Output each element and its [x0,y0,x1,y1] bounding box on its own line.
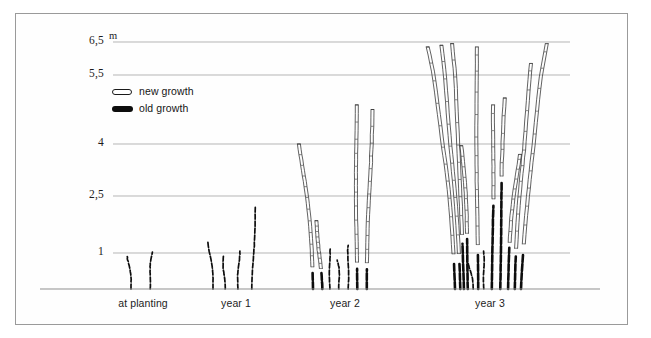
cane-old-growth [521,253,523,289]
ytick-label-1: 1 [56,245,104,257]
cane-new-growth-rail [354,105,355,262]
cane-old-growth [238,251,240,289]
cane-new-growth-rail [494,105,495,199]
cane-group-year-2 [297,105,374,289]
cane-new-growth-rail [475,47,477,245]
legend-label-new-growth: new growth [139,85,194,97]
cane-growth-plot [0,0,651,338]
cane-new-growth-rail [368,110,374,263]
cane-old-growth [515,257,516,289]
cane-new-growth-rail [478,47,480,245]
cane-old-growth [348,245,349,289]
cane-old-growth [459,262,460,289]
cane-old-growth [508,248,509,289]
cane-new-growth-rail [503,98,506,176]
cane-new-growth-rail [297,144,311,267]
xtick-label-year-2: year 2 [305,297,385,309]
cane-old-growth [208,242,213,289]
y-axis-unit-label: m [109,30,117,41]
cane-new-growth-rail [440,45,458,253]
cane-old-growth [500,183,501,289]
canes-group [127,44,549,289]
xtick-label-year-3: year 3 [450,297,530,309]
legend-label-old-growth: old growth [139,102,188,114]
cane-old-growth [127,255,132,289]
ytick-label-4: 4 [56,136,104,148]
cane-group-year-3 [426,44,548,289]
cane-old-growth [463,244,464,289]
cane-old-growth [492,206,494,289]
cane-new-growth-rail [491,105,492,199]
cane-group-at-planting [127,252,153,289]
cane-new-growth-rail [426,47,452,254]
ytick-label-65: 6,5 [56,34,104,46]
cane-old-growth [468,262,473,289]
cane-new-growth-rail [300,144,314,267]
cane-new-growth-rail [357,105,358,262]
cane-new-growth-rail [518,64,533,249]
legend-swatch-old-growth [112,106,133,112]
cane-old-growth [150,252,152,289]
legend-swatch-new-growth [112,89,132,95]
cane-group-year-1 [208,207,255,289]
cane-old-growth [337,260,339,289]
cane-new-growth-rail [451,44,461,235]
cane-old-growth [483,251,484,289]
cane-new-growth-rail [508,154,518,242]
cane-new-growth-rail [443,45,461,253]
cane-old-growth [321,271,322,289]
cane-old-growth [454,263,455,289]
cane-old-growth [223,255,225,289]
xtick-label-at-planting: at planting [93,297,193,309]
cane-old-growth [329,247,330,289]
xtick-label-year-1: year 1 [196,297,276,309]
cane-new-growth-rail [365,110,371,263]
ytick-label-55: 5,5 [56,67,104,79]
ytick-label-25: 2,5 [56,188,104,200]
cane-old-growth [252,207,256,289]
chart-page: 6,5 m 5,5 4 2,5 1 new growth old growth … [0,0,651,338]
cane-new-growth-rail [454,44,464,235]
